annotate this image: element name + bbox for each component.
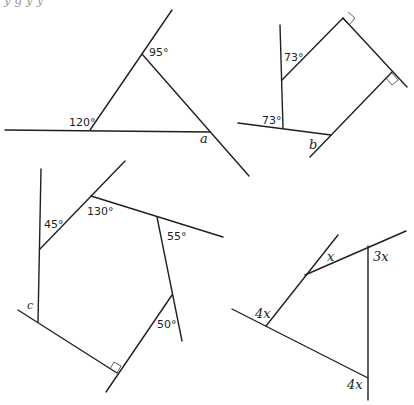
upper-left-side-line xyxy=(282,18,343,80)
angle-label-95: 95° xyxy=(149,46,169,59)
upper-right-side-line xyxy=(343,18,407,87)
cropped-header-text: y g y y xyxy=(3,0,44,7)
right-angle-marker-top xyxy=(343,12,355,25)
right-side-line xyxy=(310,72,392,157)
unknown-angle-c: c xyxy=(27,299,33,312)
lower-right-side-line xyxy=(106,295,172,392)
bottom-side-line xyxy=(238,123,331,135)
right-side-line xyxy=(142,54,249,176)
angle-label-73-lower: 73° xyxy=(262,114,282,127)
figure-triangle-a: 95° 120° a xyxy=(5,10,249,176)
unknown-angle-b: b xyxy=(309,137,317,152)
angle-label-45: 45° xyxy=(44,218,64,231)
angle-label-4x-left: 4x xyxy=(254,306,271,321)
angle-label-4x-bottom: 4x xyxy=(346,377,363,392)
base-line xyxy=(5,130,210,132)
angle-label-55: 55° xyxy=(167,230,187,243)
angle-label-3x: 3x xyxy=(373,249,389,264)
vertical-side-line xyxy=(280,25,283,128)
figure-pentagon-c: 45° 130° 55° 50° c xyxy=(18,161,223,392)
figure-quadrilateral-x: x 3x 4x 4x xyxy=(232,231,406,400)
unknown-angle-a: a xyxy=(200,131,208,146)
bottom-side-line xyxy=(232,309,368,378)
angle-label-50: 50° xyxy=(157,318,177,331)
top-side-line xyxy=(305,231,406,275)
left-side-line xyxy=(90,10,172,130)
angle-label-x: x xyxy=(327,249,335,264)
exterior-angles-diagram: y g y y 95° 120° a 73° 73° b 45° 130° 55… xyxy=(0,0,414,405)
bottom-side-line xyxy=(18,310,117,373)
angle-label-130: 130° xyxy=(87,205,114,218)
left-side-line xyxy=(38,169,41,322)
angle-label-120: 120° xyxy=(69,116,96,129)
angle-label-73-upper: 73° xyxy=(284,51,304,64)
figure-quadrilateral-b: 73° 73° b xyxy=(238,12,407,157)
